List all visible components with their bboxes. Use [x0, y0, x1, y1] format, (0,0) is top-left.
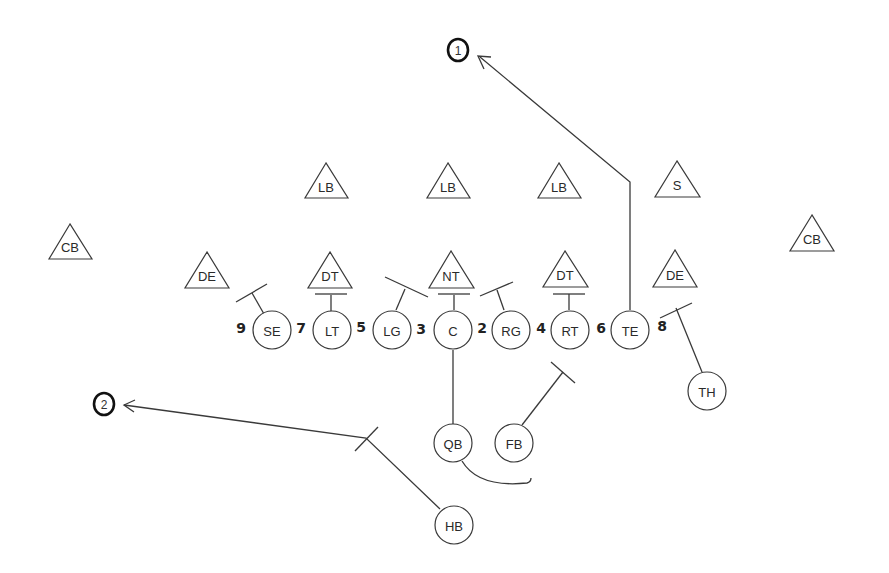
svg-text:2: 2	[101, 398, 108, 412]
svg-text:DE: DE	[666, 268, 684, 283]
svg-text:RT: RT	[561, 324, 578, 339]
defense: CB DE LB DT LB NT LB DT	[49, 161, 834, 288]
svg-text:HB: HB	[445, 519, 463, 534]
svg-text:CB: CB	[803, 232, 821, 247]
offense: SE LT LG C RG RT TE TH	[253, 311, 726, 544]
svg-text:DT: DT	[556, 268, 573, 283]
player-te: TE	[611, 311, 649, 349]
defender-s: S	[655, 161, 700, 197]
defender-lb-mid: LB	[427, 163, 470, 198]
hole-3: 3	[416, 321, 426, 337]
target-1: 1	[448, 39, 468, 61]
defender-lb-left: LB	[305, 163, 348, 198]
svg-text:NT: NT	[442, 269, 459, 284]
svg-text:LG: LG	[383, 324, 400, 339]
player-th: TH	[688, 372, 726, 410]
hole-5: 5	[356, 319, 366, 335]
player-c: C	[434, 311, 472, 349]
defender-cb-left: CB	[49, 224, 92, 259]
player-qb: QB	[434, 424, 472, 462]
player-rg: RG	[492, 311, 530, 349]
svg-text:LB: LB	[440, 180, 456, 195]
svg-text:QB: QB	[444, 437, 463, 452]
svg-text:LB: LB	[551, 180, 567, 195]
hole-9: 9	[236, 320, 246, 336]
defender-dt-right: DT	[543, 251, 588, 287]
hole-2: 2	[477, 320, 487, 336]
svg-text:S: S	[673, 178, 682, 193]
hole-6: 6	[596, 320, 606, 336]
svg-text:DT: DT	[321, 269, 338, 284]
defender-de-right: DE	[653, 250, 697, 287]
player-rt: RT	[551, 311, 589, 349]
svg-text:LT: LT	[325, 324, 339, 339]
defender-lb-right: LB	[538, 163, 581, 198]
svg-text:LB: LB	[318, 180, 334, 195]
target-2: 2	[94, 393, 114, 415]
svg-text:RG: RG	[501, 324, 521, 339]
hole-7: 7	[296, 320, 306, 336]
defender-nt: NT	[429, 251, 474, 288]
svg-text:DE: DE	[198, 269, 216, 284]
player-hb: HB	[435, 506, 473, 544]
play-diagram: CB DE LB DT LB NT LB DT	[0, 0, 889, 573]
defender-cb-right: CB	[790, 215, 834, 251]
svg-text:SE: SE	[263, 324, 281, 339]
svg-text:TE: TE	[622, 324, 639, 339]
svg-text:CB: CB	[61, 240, 79, 255]
defender-dt-left: DT	[308, 252, 352, 288]
svg-text:FB: FB	[506, 437, 523, 452]
svg-text:TH: TH	[698, 385, 715, 400]
defender-de-left: DE	[185, 252, 229, 288]
hole-8: 8	[657, 318, 667, 334]
player-fb: FB	[495, 424, 533, 462]
hole-4: 4	[536, 320, 546, 336]
svg-text:C: C	[448, 324, 457, 339]
player-se: SE	[253, 311, 291, 349]
svg-text:1: 1	[455, 44, 462, 58]
player-lt: LT	[313, 311, 351, 349]
player-lg: LG	[373, 311, 411, 349]
